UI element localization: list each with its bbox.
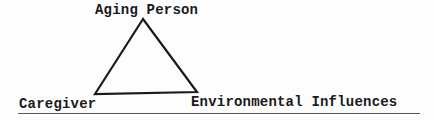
triangle	[95, 19, 197, 94]
node-label-aging-person: Aging Person	[95, 3, 198, 17]
node-label-caregiver: Caregiver	[19, 97, 96, 111]
triangle-diagram: Aging Person Caregiver Environmental Inf…	[0, 0, 434, 120]
node-label-environmental-influences: Environmental Influences	[191, 95, 397, 109]
